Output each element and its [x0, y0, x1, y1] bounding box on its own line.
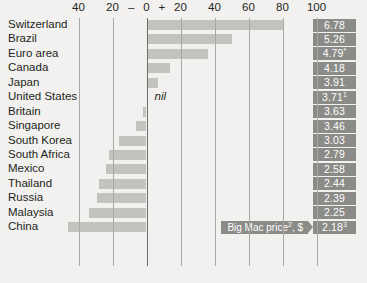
bar-singapore	[136, 121, 146, 131]
value-badge-canada: 4.18	[313, 62, 356, 75]
callout-arrow-icon	[308, 221, 313, 233]
axis-tick-label-60: 60	[242, 1, 255, 14]
chart-row: China2.183Big Mac price2, $	[0, 220, 367, 234]
big-mac-index-chart: 4020020406080100–+ Switzerland6.78Brazil…	[0, 0, 367, 283]
axis-tick-stub-40	[215, 237, 216, 246]
bar-south-africa	[109, 150, 146, 160]
chart-row: United Statesnil3.711	[0, 90, 367, 104]
chart-rows: Switzerland6.78Brazil5.26Euro area4.79*C…	[0, 18, 367, 235]
chart-row: South Africa2.79	[0, 148, 367, 162]
axis-tick-stub--40	[79, 237, 80, 246]
axis-tick-label-40-neg: 40	[72, 1, 85, 14]
gridline-80	[283, 18, 284, 266]
bar-mexico	[106, 164, 147, 174]
bar-malaysia	[89, 208, 147, 218]
row-label-canada: Canada	[8, 60, 48, 74]
value-badge-malaysia: 2.25	[313, 206, 356, 219]
value-badge-britain: 3.63	[313, 105, 356, 118]
gridline-40	[215, 18, 216, 266]
row-label-britain: Britain	[8, 104, 41, 118]
row-label-singapore: Singapore	[8, 118, 60, 132]
value-badge-euro-area: 4.79*	[313, 47, 356, 60]
chart-row: Euro area4.79*	[0, 47, 367, 61]
axis-tick-label-80: 80	[276, 1, 289, 14]
bar-japan	[147, 78, 159, 88]
axis-tick-stub--20	[113, 237, 114, 246]
value-badge-footnote: 3	[343, 220, 347, 227]
chart-row: Singapore3.46	[0, 119, 367, 133]
gridline-100	[317, 18, 318, 266]
chart-plot-area: Switzerland6.78Brazil5.26Euro area4.79*C…	[0, 18, 367, 266]
value-badge-japan: 3.91	[313, 76, 356, 89]
chart-row: Britain3.63	[0, 105, 367, 119]
axis-tick-label-20: 20	[174, 1, 187, 14]
axis-tick-stub-60	[249, 237, 250, 246]
gridline-zero	[147, 18, 148, 266]
chart-row: Thailand2.44	[0, 177, 367, 191]
value-badge-switzerland: 6.78	[313, 19, 356, 32]
value-badge-south-africa: 2.79	[313, 148, 356, 161]
gridline-20	[181, 18, 182, 266]
nil-annotation: nil	[155, 89, 167, 103]
row-label-euro-area: Euro area	[8, 46, 59, 60]
chart-row: Canada4.18	[0, 61, 367, 75]
value-badge-mexico: 2.58	[313, 163, 356, 176]
bar-south-korea	[119, 136, 146, 146]
value-badge-thailand: 2.44	[313, 177, 356, 190]
row-label-russia: Russia	[8, 190, 43, 204]
row-label-brazil: Brazil	[8, 31, 37, 45]
axis-tick-stub-100	[317, 237, 318, 246]
chart-row: Brazil5.26	[0, 32, 367, 46]
row-label-malaysia: Malaysia	[8, 205, 53, 219]
chart-row: Japan3.91	[0, 76, 367, 90]
gridline--20	[113, 18, 114, 266]
value-badge-singapore: 3.46	[313, 120, 356, 133]
chart-row: South Korea3.03	[0, 134, 367, 148]
row-label-south-africa: South Africa	[8, 147, 70, 161]
axis-tick-label-100: 100	[307, 1, 326, 14]
axis-tick-stub-zero	[147, 237, 148, 246]
value-badge-united-states: 3.711	[313, 91, 356, 104]
bar-china	[68, 222, 146, 232]
axis-tick-label-0: 0	[143, 1, 149, 14]
row-label-china: China	[8, 219, 38, 233]
bar-canada	[147, 63, 171, 73]
chart-row: Malaysia2.25	[0, 206, 367, 220]
row-label-japan: Japan	[8, 75, 39, 89]
bar-thailand	[99, 179, 147, 189]
bar-russia	[97, 193, 146, 203]
big-mac-price-callout: Big Mac price2, $	[221, 221, 308, 234]
value-badge-brazil: 5.26	[313, 33, 356, 46]
value-badge-footnote: *	[344, 47, 347, 54]
value-badge-china: 2.183	[313, 221, 356, 234]
gridline-60	[249, 18, 250, 266]
chart-row: Mexico2.58	[0, 162, 367, 176]
bar-britain	[143, 107, 146, 117]
chart-row: Russia2.39	[0, 191, 367, 205]
row-label-south-korea: South Korea	[8, 133, 72, 147]
row-label-switzerland: Switzerland	[8, 17, 67, 31]
axis-tick-stub-80	[283, 237, 284, 246]
value-badge-russia: 2.39	[313, 192, 356, 205]
value-badge-south-korea: 3.03	[313, 134, 356, 147]
bar-brazil	[147, 34, 232, 44]
axis-tick-label-20-neg: 20	[106, 1, 119, 14]
row-label-mexico: Mexico	[8, 161, 44, 175]
bar-euro-area	[147, 49, 208, 59]
axis-minus-sign: –	[128, 1, 134, 14]
gridline--40	[79, 18, 80, 266]
value-badge-footnote: 1	[343, 90, 347, 97]
row-label-united-states: United States	[8, 89, 77, 103]
row-label-thailand: Thailand	[8, 176, 52, 190]
chart-row: Switzerland6.78	[0, 18, 367, 32]
axis-tick-stub-20	[181, 237, 182, 246]
axis-tick-label-40: 40	[208, 1, 221, 14]
callout-footnote: 2	[288, 220, 292, 227]
axis-plus-sign: +	[158, 1, 165, 14]
